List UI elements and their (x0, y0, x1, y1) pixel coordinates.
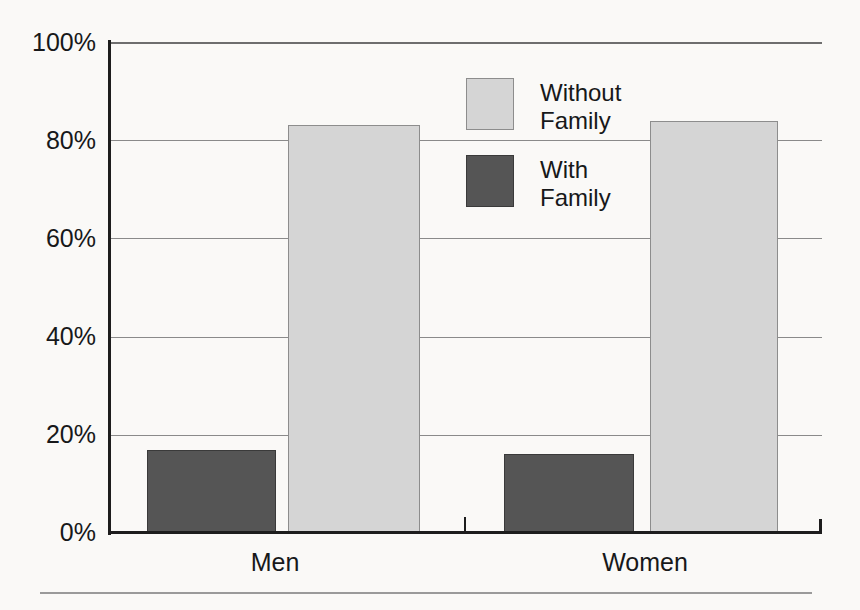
x-axis-end-tick (819, 519, 822, 534)
bar-women-with-family[interactable] (504, 454, 634, 533)
y-axis-tick-label-20: 20% (0, 420, 96, 449)
bar-men-with-family[interactable] (147, 450, 276, 533)
y-axis-tick-label-40: 40% (0, 322, 96, 351)
legend-label-without-family: Without Family (540, 78, 621, 135)
y-axis-tick-label-80: 80% (0, 126, 96, 155)
legend-swatch-with-family-icon (466, 155, 514, 207)
legend-label-with-family: With Family (540, 155, 611, 212)
y-axis-line (108, 40, 111, 535)
footer-divider (40, 592, 812, 594)
y-axis-tick-label-0: 0% (0, 518, 96, 547)
x-axis-category-tick (464, 517, 466, 533)
gridline-100 (110, 42, 822, 44)
legend-swatch-without-family-icon (466, 78, 514, 130)
bar-men-without-family[interactable] (288, 125, 420, 533)
legend-item-with-family[interactable]: With Family (466, 155, 611, 212)
y-axis-tick-label-60: 60% (0, 224, 96, 253)
x-axis-tick-label-men: Men (215, 548, 335, 577)
legend-item-without-family[interactable]: Without Family (466, 78, 621, 135)
bar-women-without-family[interactable] (650, 121, 778, 533)
y-axis-tick-label-100: 100% (0, 28, 96, 57)
bar-chart-figure: 100% 80% 60% 40% 20% 0% Men Women Withou… (0, 0, 860, 610)
x-axis-tick-label-women: Women (575, 548, 715, 577)
